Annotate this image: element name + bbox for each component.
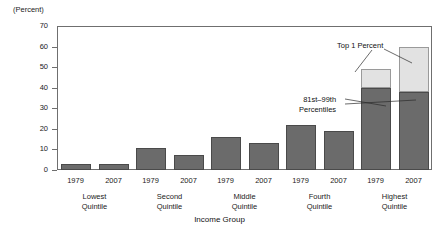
group-label-line2: Quintile (55, 202, 135, 212)
bar-segment-81st-99th (99, 164, 129, 170)
bar-segment-81st-99th (211, 137, 241, 170)
annotation-81st-99th-line1: 81st–99th (299, 95, 336, 105)
bar-segment-top-1-percent (361, 69, 391, 88)
bar-fourth-quintile-2007 (324, 131, 354, 170)
group-label-line1: Fourth (280, 192, 360, 202)
y-axis-tick-label: 20 (40, 124, 48, 133)
x-axis-year-label: 2007 (168, 176, 210, 185)
group-label-line1: Lowest (55, 192, 135, 202)
chart-container: (Percent) 010203040506070 19792007197920… (0, 0, 439, 235)
bar-segment-81st-99th (286, 125, 316, 170)
y-axis-tick-label: 30 (40, 103, 48, 112)
bar-segment-81st-99th (249, 143, 279, 170)
group-label-line1: Highest (355, 192, 435, 202)
annotation-top-1-percent: Top 1 Percent (337, 41, 383, 51)
bar-segment-81st-99th (399, 92, 429, 170)
bar-segment-81st-99th (136, 148, 166, 170)
y-axis-tick-label: 60 (40, 42, 48, 51)
x-axis-title: Income Group (0, 215, 439, 224)
bar-segment-top-1-percent (399, 47, 429, 92)
bar-lowest-quintile-2007 (99, 164, 129, 170)
x-axis-group-label-lowest-quintile: LowestQuintile (55, 192, 135, 212)
x-axis-year-label: 1979 (130, 176, 172, 185)
x-axis-group-label-fourth-quintile: FourthQuintile (280, 192, 360, 212)
y-axis-unit-label: (Percent) (13, 5, 44, 14)
bar-middle-quintile-2007 (249, 143, 279, 170)
x-axis-year-label: 1979 (55, 176, 97, 185)
x-axis-group-label-middle-quintile: MiddleQuintile (205, 192, 285, 212)
group-label-line1: Second (130, 192, 210, 202)
bar-segment-81st-99th (361, 88, 391, 170)
group-label-line1: Middle (205, 192, 285, 202)
bar-segment-81st-99th (174, 155, 204, 170)
bar-highest-quintile-2007 (399, 47, 429, 170)
y-axis-tick-label: 10 (40, 144, 48, 153)
bar-segment-81st-99th (61, 164, 91, 170)
group-label-line2: Quintile (205, 202, 285, 212)
y-axis-tick-label: 40 (40, 83, 48, 92)
bar-lowest-quintile-1979 (61, 164, 91, 170)
x-axis-year-label: 1979 (205, 176, 247, 185)
x-axis-year-label: 1979 (280, 176, 322, 185)
x-axis-year-label: 2007 (93, 176, 135, 185)
bar-segment-81st-99th (324, 131, 354, 170)
x-axis-year-label: 1979 (355, 176, 397, 185)
y-axis-tick-label: 0 (44, 165, 48, 174)
x-axis-group-label-second-quintile: SecondQuintile (130, 192, 210, 212)
group-label-line2: Quintile (355, 202, 435, 212)
annotation-81st-99th-line2: Percentiles (299, 105, 336, 115)
x-axis-group-label-highest-quintile: HighestQuintile (355, 192, 435, 212)
bar-fourth-quintile-1979 (286, 125, 316, 170)
x-axis-year-label: 2007 (243, 176, 285, 185)
bar-middle-quintile-1979 (211, 137, 241, 170)
bar-highest-quintile-1979 (361, 69, 391, 170)
bar-second-quintile-2007 (174, 155, 204, 170)
y-axis-tick-label: 50 (40, 62, 48, 71)
x-axis-year-label: 2007 (318, 176, 360, 185)
y-axis-tick-label: 70 (40, 21, 48, 30)
bar-second-quintile-1979 (136, 148, 166, 170)
group-label-line2: Quintile (130, 202, 210, 212)
annotation-81st-99th-percentiles: 81st–99th Percentiles (299, 95, 336, 114)
x-axis-year-label: 2007 (393, 176, 435, 185)
y-axis-tick-mark (52, 170, 57, 171)
group-label-line2: Quintile (280, 202, 360, 212)
